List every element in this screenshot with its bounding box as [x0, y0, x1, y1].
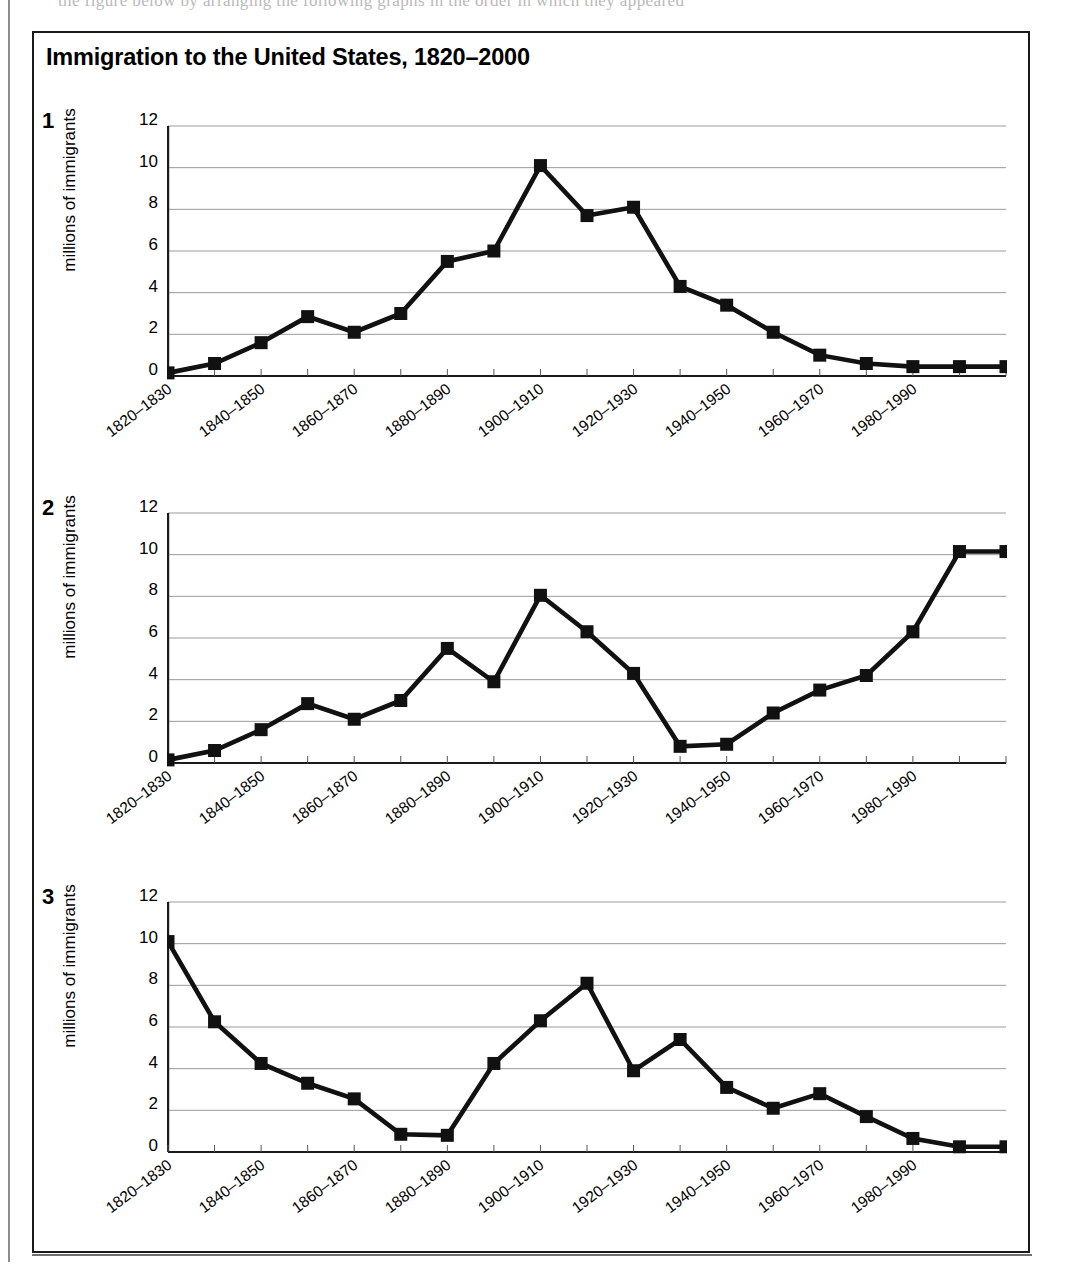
plot-area-3: 0246810121820–18301840–18501860–18701880…	[167, 896, 1005, 1146]
data-point-marker	[1000, 1140, 1008, 1153]
data-point-marker	[720, 299, 733, 312]
data-series-line	[168, 166, 1006, 373]
y-axis-tick-label: 6	[149, 235, 158, 255]
panel-index-label: 3	[42, 884, 54, 910]
y-axis-tick-label: 0	[149, 360, 158, 380]
y-axis-tick-label: 10	[139, 152, 158, 172]
data-point-marker	[394, 307, 407, 320]
data-point-marker	[906, 625, 919, 638]
data-point-marker	[255, 336, 268, 349]
data-point-marker	[953, 1140, 966, 1153]
data-point-marker	[301, 697, 314, 710]
data-point-marker	[208, 744, 221, 757]
data-point-marker	[255, 1057, 268, 1070]
y-axis-tick-label: 2	[149, 1094, 158, 1114]
y-axis-tick-label: 0	[149, 747, 158, 767]
y-axis-tick-label: 2	[149, 705, 158, 725]
data-point-marker	[394, 694, 407, 707]
data-point-marker	[674, 1033, 687, 1046]
data-point-marker	[767, 707, 780, 720]
y-axis-tick-label: 10	[139, 928, 158, 948]
data-point-marker	[255, 723, 268, 736]
data-point-marker	[813, 684, 826, 697]
y-axis-tick-label: 10	[139, 539, 158, 559]
data-point-marker	[627, 201, 640, 214]
data-point-marker	[1000, 545, 1008, 558]
data-point-marker	[813, 1087, 826, 1100]
data-point-marker	[860, 357, 873, 370]
y-axis-tick-label: 4	[149, 664, 158, 684]
data-series-line	[168, 552, 1006, 760]
data-point-marker	[860, 669, 873, 682]
data-point-marker	[534, 1014, 547, 1027]
figure-title: Immigration to the United States, 1820–2…	[46, 44, 530, 71]
data-point-marker	[581, 209, 594, 222]
y-axis-label: millions of immigrants	[60, 477, 80, 677]
page-gutter-rule	[8, 0, 10, 1262]
data-point-marker	[348, 1092, 361, 1105]
y-axis-tick-label: 4	[149, 1053, 158, 1073]
data-point-marker	[534, 159, 547, 172]
data-point-marker	[906, 1132, 919, 1145]
data-point-marker	[767, 1102, 780, 1115]
data-point-marker	[627, 1064, 640, 1077]
y-axis-tick-label: 8	[149, 580, 158, 600]
y-axis-tick-label: 12	[139, 110, 158, 130]
y-axis-tick-label: 12	[139, 497, 158, 517]
y-axis-tick-label: 6	[149, 622, 158, 642]
y-axis-tick-label: 12	[139, 886, 158, 906]
ghost-page-text: the figure below by arranging the follow…	[58, 0, 1008, 11]
data-point-marker	[487, 1057, 500, 1070]
chart-svg	[167, 120, 1007, 384]
data-point-marker	[348, 326, 361, 339]
chart-svg	[167, 507, 1007, 771]
data-point-marker	[720, 738, 733, 751]
y-axis-label: millions of immigrants	[60, 866, 80, 1066]
chart-svg	[167, 896, 1007, 1160]
data-point-marker	[534, 589, 547, 602]
data-point-marker	[208, 357, 221, 370]
data-point-marker	[627, 667, 640, 680]
data-point-marker	[906, 360, 919, 373]
plot-area-2: 0246810121820–18301840–18501860–18701880…	[167, 507, 1005, 757]
data-point-marker	[674, 280, 687, 293]
data-point-marker	[441, 1129, 454, 1142]
y-axis-tick-label: 4	[149, 277, 158, 297]
data-series-line	[168, 942, 1006, 1147]
y-axis-tick-label: 8	[149, 969, 158, 989]
data-point-marker	[301, 310, 314, 323]
data-point-marker	[167, 366, 175, 379]
data-point-marker	[441, 642, 454, 655]
data-point-marker	[301, 1077, 314, 1090]
y-axis-tick-label: 6	[149, 1011, 158, 1031]
plot-area-1: 0246810121820–18301840–18501860–18701880…	[167, 120, 1005, 370]
panel-index-label: 1	[42, 108, 54, 134]
data-point-marker	[167, 753, 175, 766]
data-point-marker	[167, 935, 175, 948]
data-point-marker	[674, 740, 687, 753]
data-point-marker	[953, 545, 966, 558]
data-point-marker	[208, 1015, 221, 1028]
data-point-marker	[1000, 360, 1008, 373]
panel-index-label: 2	[42, 495, 54, 521]
y-axis-tick-label: 2	[149, 318, 158, 338]
data-point-marker	[813, 349, 826, 362]
data-point-marker	[441, 255, 454, 268]
data-point-marker	[394, 1128, 407, 1141]
data-point-marker	[487, 675, 500, 688]
data-point-marker	[767, 326, 780, 339]
data-point-marker	[581, 625, 594, 638]
data-point-marker	[487, 245, 500, 258]
y-axis-tick-label: 8	[149, 193, 158, 213]
data-point-marker	[953, 360, 966, 373]
data-point-marker	[720, 1081, 733, 1094]
data-point-marker	[348, 713, 361, 726]
data-point-marker	[581, 977, 594, 990]
data-point-marker	[860, 1110, 873, 1123]
y-axis-label: millions of immigrants	[60, 90, 80, 290]
y-axis-tick-label: 0	[149, 1136, 158, 1156]
